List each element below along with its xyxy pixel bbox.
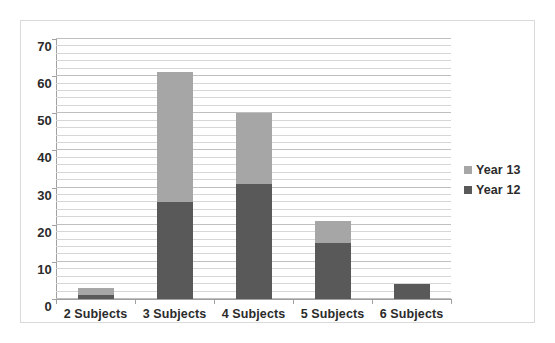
bar-group[interactable] <box>214 39 293 299</box>
bar-segment-year-12[interactable] <box>394 284 430 299</box>
bar-segment-year-12[interactable] <box>315 243 351 299</box>
bar-segment-year-12[interactable] <box>236 184 272 299</box>
legend-label: Year 12 <box>476 183 521 197</box>
bar-group[interactable] <box>293 39 372 299</box>
x-axis-tick-mark <box>451 299 452 304</box>
x-axis-tick-mark <box>372 299 373 304</box>
x-axis-tick-label: 2 Subjects <box>56 307 135 321</box>
legend-item[interactable]: Year 13 <box>464 160 534 180</box>
bar-stack[interactable] <box>394 284 430 299</box>
bar-stack[interactable] <box>157 72 193 299</box>
x-axis-tick-label: 5 Subjects <box>293 307 372 321</box>
legend-item[interactable]: Year 12 <box>464 180 534 200</box>
x-axis-tick-labels: 2 Subjects3 Subjects4 Subjects5 Subjects… <box>56 307 452 327</box>
x-axis-tick-label: 6 Subjects <box>372 307 451 321</box>
x-axis-tick-label: 3 Subjects <box>135 307 214 321</box>
x-axis-tick-label: 4 Subjects <box>214 307 293 321</box>
chart-legend: Year 13Year 12 <box>464 160 534 200</box>
plot-area <box>56 39 451 299</box>
x-axis-tick-mark <box>293 299 294 304</box>
legend-swatch-icon <box>464 186 472 194</box>
bar-stack[interactable] <box>315 221 351 299</box>
bar-stack[interactable] <box>78 288 114 299</box>
chart-screenshot: 010203040506070 2 Subjects3 Subjects4 Su… <box>0 0 555 343</box>
legend-label: Year 13 <box>476 163 521 177</box>
x-axis-tick-marks <box>56 299 452 305</box>
x-axis-tick-mark <box>214 299 215 304</box>
bar-segment-year-13[interactable] <box>78 288 114 295</box>
x-axis-tick-mark <box>135 299 136 304</box>
bar-segment-year-13[interactable] <box>315 221 351 243</box>
x-axis-tick-mark <box>56 299 57 304</box>
bar-segment-year-13[interactable] <box>236 113 272 184</box>
y-axis-tick-labels: 010203040506070 <box>21 39 52 299</box>
bar-group[interactable] <box>56 39 135 299</box>
bar-group[interactable] <box>372 39 451 299</box>
legend-swatch-icon <box>464 166 472 174</box>
bar-group[interactable] <box>135 39 214 299</box>
chart-frame: 010203040506070 2 Subjects3 Subjects4 Su… <box>20 20 535 323</box>
bars-layer <box>56 39 451 299</box>
bar-stack[interactable] <box>236 113 272 299</box>
bar-segment-year-12[interactable] <box>157 202 193 299</box>
bar-segment-year-13[interactable] <box>157 72 193 202</box>
